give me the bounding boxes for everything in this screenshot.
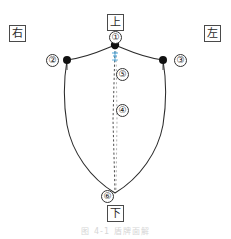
shield-figure: 上 右 左 下 ① ② ③ ④ ⑤ ⑥ 图 4-1 盾牌面解 [0, 0, 231, 239]
vertex-dot-left-shoulder [63, 56, 71, 64]
direction-box-right: 左 [204, 25, 221, 42]
direction-box-top: 上 [107, 14, 124, 31]
direction-box-left: 右 [9, 25, 26, 42]
figure-caption: 图 4-1 盾牌面解 [0, 225, 231, 236]
callout-3: ③ [174, 54, 187, 67]
callout-1: ① [109, 31, 122, 44]
direction-box-bottom: 下 [107, 205, 124, 222]
shield-outline-path [64, 45, 165, 193]
accent-mark-icon [112, 51, 118, 62]
center-axis-dashed-line [113, 47, 115, 192]
callout-5: ⑤ [116, 68, 129, 81]
callout-4: ④ [116, 104, 129, 117]
callout-6: ⑥ [101, 190, 114, 203]
center-axis-dashed-line-secondary [116, 47, 117, 192]
callout-2: ② [46, 54, 59, 67]
vertex-dot-right-shoulder [159, 56, 167, 64]
